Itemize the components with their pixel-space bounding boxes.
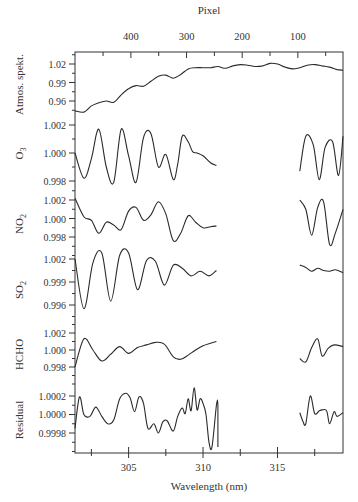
pixel-tick-label: 300: [179, 31, 195, 42]
spectrum-curve: [75, 63, 343, 112]
pixel-tick-label: 100: [290, 31, 306, 42]
pixel-tick-label: 400: [123, 31, 139, 42]
y-tick-label: 1.002: [44, 254, 67, 265]
spectrum-curve: [75, 388, 218, 450]
pixel-tick-label: 200: [234, 31, 250, 42]
panel-o3: 1.0021.0000.998O3: [13, 120, 343, 187]
y-tick-label: 0.9998: [39, 428, 67, 439]
y-tick-label: 0.998: [44, 176, 67, 187]
y-tick-label: 1.000: [44, 214, 67, 225]
panel-y-label: HCHO: [13, 339, 25, 370]
y-tick-label: 1.0000: [39, 409, 67, 420]
spectrum-curve: [300, 199, 343, 245]
y-tick-label: 1.002: [44, 120, 67, 131]
spectral-panels: 1.020.990.96Atmos. spekt.1.0021.0000.998…: [13, 54, 343, 452]
spectrum-curve: [300, 135, 343, 180]
panel-residual: 1.00021.00000.9998Residual: [13, 388, 343, 452]
y-tick-label: 0.96: [49, 96, 67, 107]
y-tick-label: 1.000: [44, 148, 67, 159]
wavelength-tick-label: 315: [270, 462, 286, 473]
spectrum-curve: [300, 265, 343, 273]
panel-no2: 1.0021.0000.998NO2: [13, 191, 343, 256]
wavelength-tick-label: 310: [195, 462, 211, 473]
panel-y-label: NO2: [13, 214, 28, 234]
wavelength-axis: Wavelength (nm) 305310315: [91, 447, 314, 493]
panel-so2: 1.0020.9990.996SO2: [13, 249, 343, 317]
y-tick-label: 0.998: [44, 232, 67, 243]
y-tick-label: 1.000: [44, 345, 67, 356]
spectrum-curve: [75, 129, 216, 184]
chart: Pixel 400300200100 Wavelength (nm) 30531…: [0, 0, 358, 502]
spectrum-curve: [300, 396, 343, 425]
panel-y-label: SO2: [13, 281, 28, 299]
spectrum-curve: [75, 198, 216, 241]
y-tick-label: 0.99: [49, 78, 67, 89]
y-tick-label: 1.0002: [39, 391, 67, 402]
y-tick-label: 0.998: [44, 362, 67, 373]
spectrum-curve: [75, 338, 216, 367]
y-tick-label: 1.002: [44, 328, 67, 339]
spectrum-curve: [300, 339, 343, 363]
plot-frame: [75, 52, 343, 453]
wavelength-tick-label: 305: [121, 462, 137, 473]
wavelength-axis-label: Wavelength (nm): [171, 480, 248, 493]
pixel-axis-label: Pixel: [198, 4, 221, 16]
panel-y-label: O3: [13, 148, 28, 160]
panel-y-label: Residual: [13, 401, 25, 440]
y-tick-label: 1.002: [44, 195, 67, 206]
spectrum-curve: [75, 249, 216, 309]
y-tick-label: 0.999: [44, 277, 67, 288]
pixel-axis: Pixel 400300200100: [103, 4, 326, 58]
panel-hcho: 1.0021.0000.998HCHO: [13, 325, 343, 385]
y-tick-label: 0.996: [44, 300, 67, 311]
y-tick-label: 1.02: [49, 59, 67, 70]
panel-atmos-spekt-: 1.020.990.96Atmos. spekt.: [13, 54, 343, 115]
panel-y-label: Atmos. spekt.: [13, 54, 25, 115]
